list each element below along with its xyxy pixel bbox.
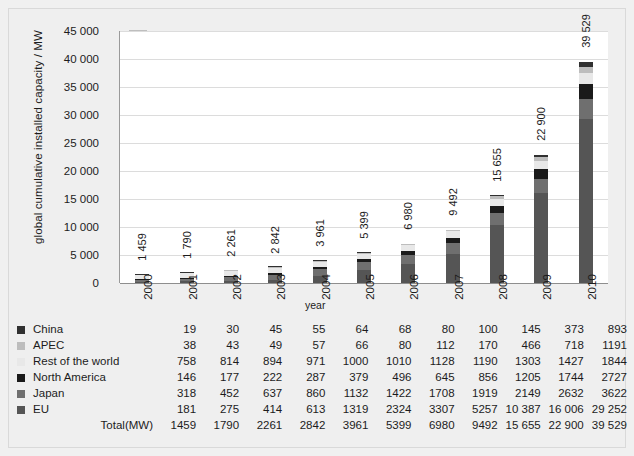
- total-cell-value: 15 655: [498, 417, 541, 433]
- table-cell-value: 1708: [411, 385, 454, 401]
- table-cell-value: 1132: [325, 385, 368, 401]
- bar-group[interactable]: 5 3992005: [342, 31, 386, 283]
- table-cell-value: 2149: [498, 385, 541, 401]
- total-cell-value: 22 900: [541, 417, 584, 433]
- total-cell-value: 2261: [239, 417, 282, 433]
- total-row-label: Total(MW): [33, 417, 153, 433]
- bar-segment-eu[interactable]: [579, 119, 593, 283]
- x-axis-tick-label: 2006: [408, 274, 420, 300]
- bar-segment-rest-of-the-world[interactable]: [579, 73, 593, 83]
- legend-series-label: China: [33, 321, 153, 337]
- bar-value-label: 6 980: [402, 201, 414, 232]
- legend-data-table: China19304555646880100145373893APEC38434…: [9, 321, 627, 449]
- bar-segment-rest-of-the-world[interactable]: [490, 199, 504, 206]
- table-row-total: Total(MW)1459179022612842396153996980949…: [9, 417, 627, 433]
- bar-segment-apec[interactable]: [579, 67, 593, 74]
- bar-group[interactable]: 39 5292010: [564, 31, 608, 283]
- bar-value-label: 39 529: [580, 12, 592, 49]
- x-axis-tick-label: 2002: [231, 274, 243, 300]
- table-cell-value: 64: [325, 321, 368, 337]
- table-cell-value: 2727: [584, 369, 627, 385]
- table-cell-value: 100: [455, 321, 498, 337]
- table-row: China19304555646880100145373893: [9, 321, 627, 337]
- y-axis-tick-label: 40 000: [64, 53, 99, 65]
- chart-page: global cumulative installed capacity / M…: [0, 0, 634, 456]
- bar-segment-rest-of-the-world[interactable]: [534, 161, 548, 169]
- table-cell-value: 2632: [541, 385, 584, 401]
- legend-color-swatch-icon: [17, 342, 25, 350]
- table-cell-value: 1190: [455, 353, 498, 369]
- total-cell-value: 5399: [368, 417, 411, 433]
- total-cell-value: 1790: [196, 417, 239, 433]
- bar-group[interactable]: 3 9612004: [297, 31, 341, 283]
- bar-group[interactable]: 2 8422003: [253, 31, 297, 283]
- table-cell-value: 1919: [455, 385, 498, 401]
- total-swatch-spacer: [9, 417, 33, 433]
- table-cell-value: 893: [584, 321, 627, 337]
- bar-segment-north-america[interactable]: [579, 84, 593, 99]
- table-cell-value: 856: [455, 369, 498, 385]
- y-axis-tick-label: 30 000: [64, 109, 99, 121]
- table-cell-value: 1000: [325, 353, 368, 369]
- bar-group[interactable]: 15 6552008: [475, 31, 519, 283]
- bar-group[interactable]: 9 4922007: [431, 31, 475, 283]
- table-cell-value: 5257: [455, 401, 498, 417]
- legend-color-swatch-icon: [17, 358, 25, 366]
- table-cell-value: 170: [455, 337, 498, 353]
- stacked-bar[interactable]: [534, 155, 548, 283]
- plot-area: 1 45920001 79020012 26120022 84220033 96…: [119, 31, 608, 283]
- bar-group[interactable]: 1 7902001: [164, 31, 208, 283]
- bar-value-label: 1 790: [181, 230, 193, 261]
- legend-series-label: EU: [33, 401, 153, 417]
- x-axis-tick-label: 2000: [142, 274, 154, 300]
- bar-value-label: 5 399: [358, 210, 370, 241]
- bar-group[interactable]: 2 2612002: [209, 31, 253, 283]
- bar-segment-north-america[interactable]: [490, 206, 504, 213]
- table-cell-value: 613: [282, 401, 325, 417]
- legend-series-label: APEC: [33, 337, 153, 353]
- bar-value-label: 22 900: [535, 106, 547, 143]
- table-cell-value: 379: [325, 369, 368, 385]
- table-cell-value: 1422: [368, 385, 411, 401]
- table-cell-value: 2324: [368, 401, 411, 417]
- table-cell-value: 66: [325, 337, 368, 353]
- bar-segment-japan[interactable]: [490, 213, 504, 225]
- bar-group[interactable]: 22 9002009: [519, 31, 563, 283]
- bar-segment-rest-of-the-world[interactable]: [446, 231, 460, 238]
- table-cell-value: 145: [498, 321, 541, 337]
- legend-color-swatch-icon: [17, 326, 25, 334]
- x-axis-tick-label: 2009: [541, 274, 553, 300]
- table-cell-value: 3622: [584, 385, 627, 401]
- bar-segment-north-america[interactable]: [534, 169, 548, 179]
- table-cell-value: 80: [368, 337, 411, 353]
- total-cell-value: 2842: [282, 417, 325, 433]
- stacked-bar[interactable]: [579, 62, 593, 283]
- table-cell-value: 860: [282, 385, 325, 401]
- table-cell-value: 466: [498, 337, 541, 353]
- bar-value-label: 2 842: [269, 224, 281, 255]
- x-axis-tick-label: 2005: [364, 274, 376, 300]
- stacked-bar[interactable]: [490, 195, 504, 283]
- table-cell-value: 1844: [584, 353, 627, 369]
- table-cell-value: 45: [239, 321, 282, 337]
- table-cell-value: 318: [153, 385, 196, 401]
- bar-segment-eu[interactable]: [534, 193, 548, 283]
- y-axis-tick-label: 20 000: [64, 165, 99, 177]
- bar-group[interactable]: 6 9802006: [386, 31, 430, 283]
- y-axis-tick-label: 45 000: [64, 25, 99, 37]
- y-axis-tick-label: 5 000: [70, 249, 99, 261]
- bar-value-label: 2 261: [225, 227, 237, 258]
- bar-group[interactable]: 1 4592000: [120, 31, 164, 283]
- bar-segment-japan[interactable]: [534, 179, 548, 194]
- legend-color-swatch-icon: [17, 406, 25, 414]
- bar-value-label: 15 655: [491, 146, 503, 183]
- bar-segment-japan[interactable]: [401, 255, 415, 265]
- bar-segment-japan[interactable]: [579, 99, 593, 119]
- bar-segment-japan[interactable]: [446, 243, 460, 254]
- legend-series-label: Japan: [33, 385, 153, 401]
- table-cell-value: 38: [153, 337, 196, 353]
- bar-segment-japan[interactable]: [357, 262, 371, 270]
- table-cell-value: 29 252: [584, 401, 627, 417]
- x-axis-tick-label: 2010: [586, 274, 598, 300]
- table-cell-value: 43: [196, 337, 239, 353]
